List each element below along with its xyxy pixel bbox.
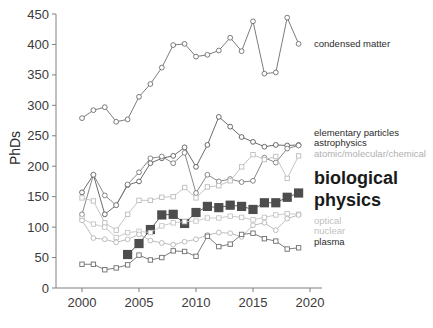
data-point-marker [296,246,300,250]
y-tick-label: 100 [27,220,49,235]
x-tick-label: 2000 [68,295,97,310]
legend-label-atomic-molecular-chemical: atomic/molecular/chemical [314,148,426,159]
x-tick-label: 2005 [125,295,154,310]
data-point-marker [248,205,257,214]
data-point-marker [194,254,198,258]
data-point-marker [262,157,266,161]
y-tick-label: 150 [27,189,49,204]
data-point-marker [137,179,142,184]
data-point-marker [148,156,153,161]
data-point-marker [205,216,209,220]
data-point-marker [205,234,209,238]
data-point-marker [273,70,278,75]
y-tick-label: 250 [27,128,49,143]
data-point-marker [114,235,118,239]
x-tick-label: 2020 [296,295,325,310]
data-point-marker [251,231,255,235]
series-optical [80,212,301,240]
data-point-marker [194,196,198,200]
phds-by-field-line-chart: 0501001502002503003504004502000200520102… [0,0,433,328]
series-atomic-molecular-chemical [80,152,301,232]
data-point-marker [182,239,187,244]
chart-container: 0501001502002503003504004502000200520102… [0,0,433,328]
data-point-marker [239,165,243,169]
data-point-marker [182,150,187,155]
data-point-marker [159,154,164,159]
data-point-marker [123,250,132,259]
data-point-marker [137,170,142,175]
data-point-marker [214,203,223,212]
data-point-marker [294,188,303,197]
data-point-marker [217,216,221,220]
data-point-marker [251,139,256,144]
data-point-marker [148,258,152,262]
y-tick-label: 400 [27,37,49,52]
data-point-marker [114,203,119,208]
data-point-marker [237,202,246,211]
data-point-marker [80,218,85,223]
legend-label-nuclear: nuclear [314,225,345,236]
data-point-marker [228,124,233,129]
data-point-marker [285,212,289,216]
data-point-marker [228,231,233,236]
data-point-marker [285,146,290,151]
data-point-marker [251,19,256,24]
data-point-marker [239,135,244,140]
data-point-marker [91,108,96,113]
data-point-marker [103,225,107,229]
data-point-marker [203,202,212,211]
data-point-marker [285,176,289,180]
data-point-marker [80,196,84,200]
data-point-marker [251,152,255,156]
data-point-marker [273,160,278,165]
data-point-marker [125,117,130,122]
data-point-marker [216,48,221,53]
data-point-marker [125,237,130,242]
data-series [80,15,304,272]
data-point-marker [285,216,290,221]
data-point-marker [157,210,166,219]
data-point-marker [114,266,118,270]
data-point-marker [194,191,199,196]
data-point-marker [102,193,107,198]
data-point-marker [260,198,269,207]
data-point-marker [80,190,85,195]
data-point-marker [114,240,119,245]
legend-label-condensed-matter: condensed matter [314,38,390,49]
data-point-marker [80,116,85,121]
data-point-marker [171,242,176,247]
data-point-marker [296,154,300,158]
data-point-marker [274,154,278,158]
data-point-marker [91,236,96,241]
series-plasma [80,231,301,272]
data-point-marker [251,218,255,222]
data-point-marker [205,185,209,189]
data-point-marker [216,115,221,120]
data-point-marker [239,180,244,185]
data-point-marker [296,213,301,218]
y-tick-label: 200 [27,159,49,174]
data-point-marker [91,222,95,226]
y-tick-label: 0 [42,281,49,296]
data-point-marker [134,239,143,248]
data-point-marker [159,241,164,246]
data-point-marker [171,161,176,166]
data-point-marker [182,249,186,253]
data-point-marker [103,221,107,225]
data-point-marker [171,249,175,253]
data-point-marker [91,172,96,177]
data-point-marker [239,215,243,219]
data-point-marker [271,198,280,207]
data-point-marker [251,223,256,228]
data-point-marker [102,105,107,110]
data-point-marker [91,262,95,266]
data-point-marker [285,247,289,251]
data-point-marker [125,230,129,234]
data-point-marker [102,237,107,242]
data-point-marker [125,263,129,267]
data-point-marker [160,224,164,228]
data-point-marker [228,214,232,218]
data-point-marker [103,268,107,272]
data-point-marker [137,198,141,202]
data-point-marker [205,143,210,148]
